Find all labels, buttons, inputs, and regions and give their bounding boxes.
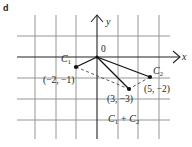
vector-c2 (97, 57, 150, 77)
y-axis-label: y (105, 16, 111, 27)
panel-label: d (3, 3, 9, 13)
c2-coord-label: (5, −2) (144, 84, 170, 95)
c2-label: C2 (153, 65, 163, 77)
sum-coord-label: (3, −3) (107, 94, 133, 105)
vector-sum (97, 57, 129, 89)
x-axis-label: x (181, 51, 187, 62)
vectors (76, 57, 150, 89)
point-origin (95, 55, 98, 58)
c1-coord-label: (−2, −1) (43, 75, 74, 86)
origin-label: 0 (101, 44, 106, 54)
sum-label: C1+C2 (108, 113, 139, 125)
c1-label: C1 (61, 53, 71, 65)
point-c1 (74, 65, 78, 69)
vector-addition-diagram: d x y 0 C1 (−2, − (0, 0, 192, 147)
point-c2 (148, 75, 152, 79)
point-sum (127, 87, 131, 91)
grid (17, 15, 170, 139)
vector-c1 (76, 57, 97, 67)
